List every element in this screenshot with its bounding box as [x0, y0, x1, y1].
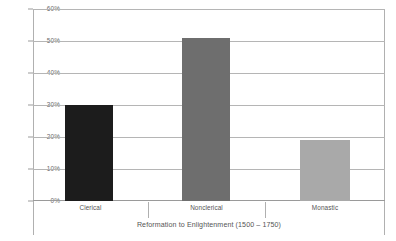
category-axis: Clerical Nonclerical Monastic	[33, 201, 385, 218]
gridline-60	[33, 9, 385, 10]
plot-area	[33, 9, 385, 201]
bar-monastic[interactable]	[300, 140, 350, 201]
bar-chart: 60% 50% 40% 30% 20% 10% 0%	[0, 0, 396, 241]
bar-nonclerical[interactable]	[182, 38, 230, 201]
category-label-clerical: Clerical	[33, 205, 148, 211]
bar-clerical[interactable]	[65, 105, 113, 201]
category-label-nonclerical: Nonclerical	[148, 205, 265, 211]
x-axis-title: Reformation to Enlightenment (1500 – 175…	[33, 222, 385, 229]
category-label-monastic: Monastic	[265, 205, 385, 211]
